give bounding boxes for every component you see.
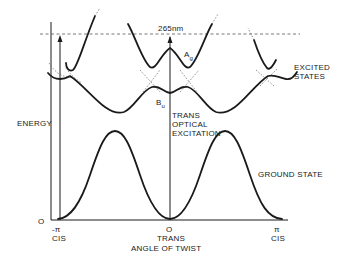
cis-left-label: CIS [52,234,66,243]
trans-optical-label-2: OPTICAL [172,120,208,129]
trans-optical-label-3: EXCITATION [172,129,221,138]
left-upper-branch-curve [66,16,95,71]
energy-axis-label: ENERGY [17,119,52,128]
ground-state-label: GROUND STATE [258,170,323,179]
excited-states-label-2: STATES [294,72,325,81]
diabatic-crossing-center-right [180,70,199,92]
cis-arrow-head-icon [58,35,63,42]
x-axis-title: ANGLE OF TWIST [131,244,201,253]
trans-arrow-head-icon [168,36,173,43]
y-zero-label: O [38,217,44,226]
tick-neg-pi: -π [52,225,61,234]
tick-pi: π [274,225,280,234]
bu-label: Bu [156,98,165,109]
energy-diagram: 265nm Ag Bu EXCITED STATES TRANS OPTICAL… [0,0,342,264]
tick-zero: O [166,225,172,234]
trans-optical-label-1: TRANS [172,111,200,120]
excited-states-label-1: EXCITED [294,63,330,72]
trans-center-label: TRANS [157,234,185,243]
ag-label: Ag [184,50,193,61]
bu-excited-state-curve [48,72,297,113]
cis-right-label: CIS [271,234,285,243]
wavelength-label: 265nm [158,24,184,33]
right-upper-branch-curve [254,40,276,69]
